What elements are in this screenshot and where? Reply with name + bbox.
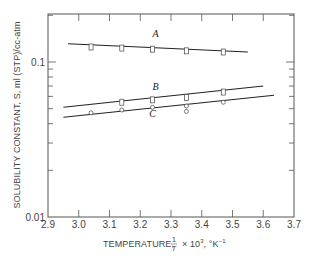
circle-marker-c: [184, 104, 188, 108]
square-marker-a: [120, 45, 124, 51]
y-tick-label: 0.1: [31, 57, 45, 68]
fraction-numerator: 1: [172, 236, 176, 243]
x-tick-label: 3.3: [164, 219, 178, 230]
y-axis-ticks: 0.010.1: [26, 15, 294, 223]
circle-marker-c: [221, 100, 225, 104]
square-marker-a: [89, 44, 93, 50]
y-axis-title: SOLUBILITY CONSTANT, S, ml (STP)/cc-atm: [12, 21, 22, 208]
solubility-chart: 2.93.03.13.23.33.43.53.63.7 0.010.1 ABC …: [0, 0, 312, 261]
square-marker-b: [120, 99, 124, 105]
x-tick-label: 3.4: [195, 219, 209, 230]
x-tick-label: 3.6: [256, 219, 270, 230]
x-axis-title-suffix: × 103, °K−1: [182, 238, 226, 249]
circle-marker-c: [184, 109, 188, 113]
series-labels: ABC: [149, 28, 159, 119]
x-tick-label: 3.0: [72, 219, 86, 230]
square-marker-a: [184, 48, 188, 54]
square-marker-b: [184, 95, 188, 101]
square-marker-b: [221, 89, 225, 95]
x-tick-label: 3.1: [103, 219, 117, 230]
x-tick-label: 3.5: [226, 219, 240, 230]
x-tick-label: 3.7: [287, 219, 301, 230]
square-marker-b: [151, 97, 155, 103]
x-axis-title: TEMPERATURE, 1 T × 103, °K−1: [103, 236, 226, 252]
x-tick-label: 3.2: [133, 219, 147, 230]
fit-line-b: [63, 86, 263, 107]
x-axis-ticks: 2.93.03.13.23.33.43.53.63.7: [41, 14, 301, 230]
fraction-denominator: T: [172, 245, 177, 252]
series-label-c: C: [149, 108, 156, 119]
y-tick-label: 0.01: [26, 212, 46, 223]
square-marker-a: [221, 49, 225, 55]
circle-marker-c: [89, 111, 93, 115]
fit-line-a: [68, 44, 248, 52]
fit-lines: [63, 44, 274, 117]
series-label-b: B: [153, 81, 159, 92]
series-label-a: A: [152, 28, 160, 39]
circle-marker-c: [120, 108, 124, 112]
square-marker-a: [151, 46, 155, 52]
data-markers: [89, 44, 225, 115]
x-axis-title-prefix: TEMPERATURE,: [103, 239, 174, 249]
fit-line-c: [63, 95, 274, 117]
